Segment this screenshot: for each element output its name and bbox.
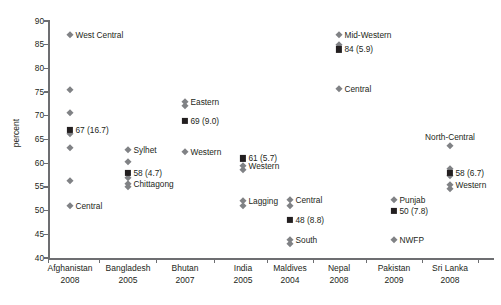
y-tick-mark xyxy=(44,163,48,164)
x-axis-line xyxy=(48,258,494,260)
y-tick-label: 50 xyxy=(24,206,44,214)
y-tick-mark xyxy=(44,234,48,235)
data-point-label: Central xyxy=(76,202,103,210)
region-marker xyxy=(181,103,189,111)
y-tick-label: 55 xyxy=(24,182,44,190)
y-axis-line xyxy=(48,20,50,259)
region-marker xyxy=(239,166,247,174)
region-marker xyxy=(390,196,398,204)
national-average-marker xyxy=(447,170,453,176)
y-tick-label-wrap: 55 xyxy=(22,182,44,191)
y-tick-label-wrap: 50 xyxy=(22,206,44,215)
region-marker xyxy=(124,158,132,166)
y-tick-label-wrap: 60 xyxy=(22,159,44,168)
x-label-country: Sri Lanka xyxy=(432,263,468,273)
data-point-label: 58 (6.7) xyxy=(456,169,485,177)
region-marker xyxy=(239,202,247,210)
region-marker xyxy=(66,202,74,210)
y-tick-label-wrap: 65 xyxy=(22,135,44,144)
x-axis-label-sri-lanka: Sri Lanka2008 xyxy=(405,263,495,286)
national-average-marker xyxy=(391,208,397,214)
data-point-label: Central xyxy=(296,196,323,204)
y-tick-label-wrap: 45 xyxy=(22,230,44,239)
y-tick-label-wrap: 70 xyxy=(22,111,44,120)
national-average-marker xyxy=(287,217,293,223)
data-point-label: Sylhet xyxy=(134,146,157,154)
data-point-label: 67 (16.7) xyxy=(76,126,109,134)
national-average-marker xyxy=(67,127,73,133)
y-tick-mark xyxy=(44,20,48,21)
data-point-label: Eastern xyxy=(191,97,220,105)
region-marker xyxy=(66,109,74,117)
data-point-label: NWFP xyxy=(400,236,424,244)
data-point-label: Western xyxy=(456,180,487,188)
data-point-label: 48 (8.8) xyxy=(296,216,325,224)
y-tick-label: 70 xyxy=(24,111,44,119)
data-point-label: 58 (4.7) xyxy=(134,169,163,177)
region-marker xyxy=(286,202,294,210)
data-point-label: West Central xyxy=(76,31,124,39)
y-tick-mark xyxy=(44,115,48,116)
y-tick-label-wrap: 75 xyxy=(22,88,44,97)
y-tick-label: 85 xyxy=(24,40,44,48)
y-tick-label-wrap: 90 xyxy=(22,17,44,26)
y-tick-label: 60 xyxy=(24,159,44,167)
national-average-marker xyxy=(336,46,342,52)
data-point-label: 61 (5.7) xyxy=(249,154,278,162)
y-tick-label: 40 xyxy=(24,254,44,262)
x-label-country: Nepal xyxy=(328,263,350,273)
y-tick-label-wrap: 80 xyxy=(22,64,44,73)
region-marker xyxy=(66,144,74,152)
y-tick-label-wrap: 40 xyxy=(22,254,44,263)
data-point-label: Western xyxy=(191,148,222,156)
y-tick-mark xyxy=(44,44,48,45)
y-axis-title: percent xyxy=(11,103,21,163)
national-average-marker xyxy=(240,155,246,161)
y-tick-label-wrap: 85 xyxy=(22,40,44,49)
region-marker xyxy=(181,148,189,156)
scatter-chart-panel: percent 9085807570656055504540 Afghanist… xyxy=(0,0,501,305)
y-tick-mark xyxy=(44,186,48,187)
y-tick-label: 45 xyxy=(24,230,44,238)
data-point-label: Mid-Western xyxy=(345,31,392,39)
region-marker xyxy=(335,31,343,39)
x-label-year: 2008 xyxy=(405,275,495,287)
region-marker xyxy=(335,85,343,93)
y-tick-label: 80 xyxy=(24,64,44,72)
y-tick-mark xyxy=(44,210,48,211)
data-point-label: 50 (7.8) xyxy=(400,206,429,214)
region-marker xyxy=(446,142,454,150)
data-point-label: Chittagong xyxy=(134,180,174,188)
y-tick-label: 75 xyxy=(24,88,44,96)
region-marker xyxy=(390,237,398,245)
data-point-label: Central xyxy=(345,85,372,93)
data-point-label: 84 (5.9) xyxy=(345,45,374,53)
data-point-label: Punjab xyxy=(400,196,426,204)
region-marker xyxy=(124,146,132,154)
region-marker xyxy=(66,86,74,94)
y-tick-mark xyxy=(44,139,48,140)
data-point-label: North-Central xyxy=(425,132,475,140)
national-average-marker xyxy=(125,170,131,176)
y-tick-label: 90 xyxy=(24,17,44,25)
y-tick-label: 65 xyxy=(24,135,44,143)
region-marker xyxy=(66,31,74,39)
data-point-label: Lagging xyxy=(249,197,279,205)
x-label-country: Bhutan xyxy=(172,263,199,273)
data-point-label: 69 (9.0) xyxy=(191,116,220,124)
y-tick-mark xyxy=(44,68,48,69)
y-tick-mark xyxy=(44,91,48,92)
region-marker xyxy=(66,177,74,185)
data-point-label: South xyxy=(296,236,318,244)
national-average-marker xyxy=(182,117,188,123)
